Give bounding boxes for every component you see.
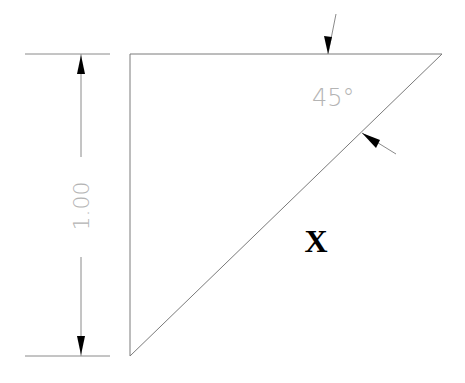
angle-dimension: 45°	[312, 14, 396, 154]
vertical-dimension-value: 1.00	[69, 182, 94, 231]
triangle-hypotenuse	[130, 54, 442, 356]
label-x: X	[304, 223, 327, 259]
arrowhead-top-icon	[324, 36, 332, 54]
triangle	[130, 54, 442, 356]
arrowhead-down-icon	[77, 336, 85, 355]
angle-dimension-value: 45°	[312, 84, 355, 112]
triangle-drawing: 1.00 45° X	[0, 0, 465, 383]
vertical-dimension: 1.00	[25, 54, 110, 356]
arrowhead-hypotenuse-icon	[362, 133, 380, 148]
arrowhead-up-icon	[77, 55, 85, 74]
